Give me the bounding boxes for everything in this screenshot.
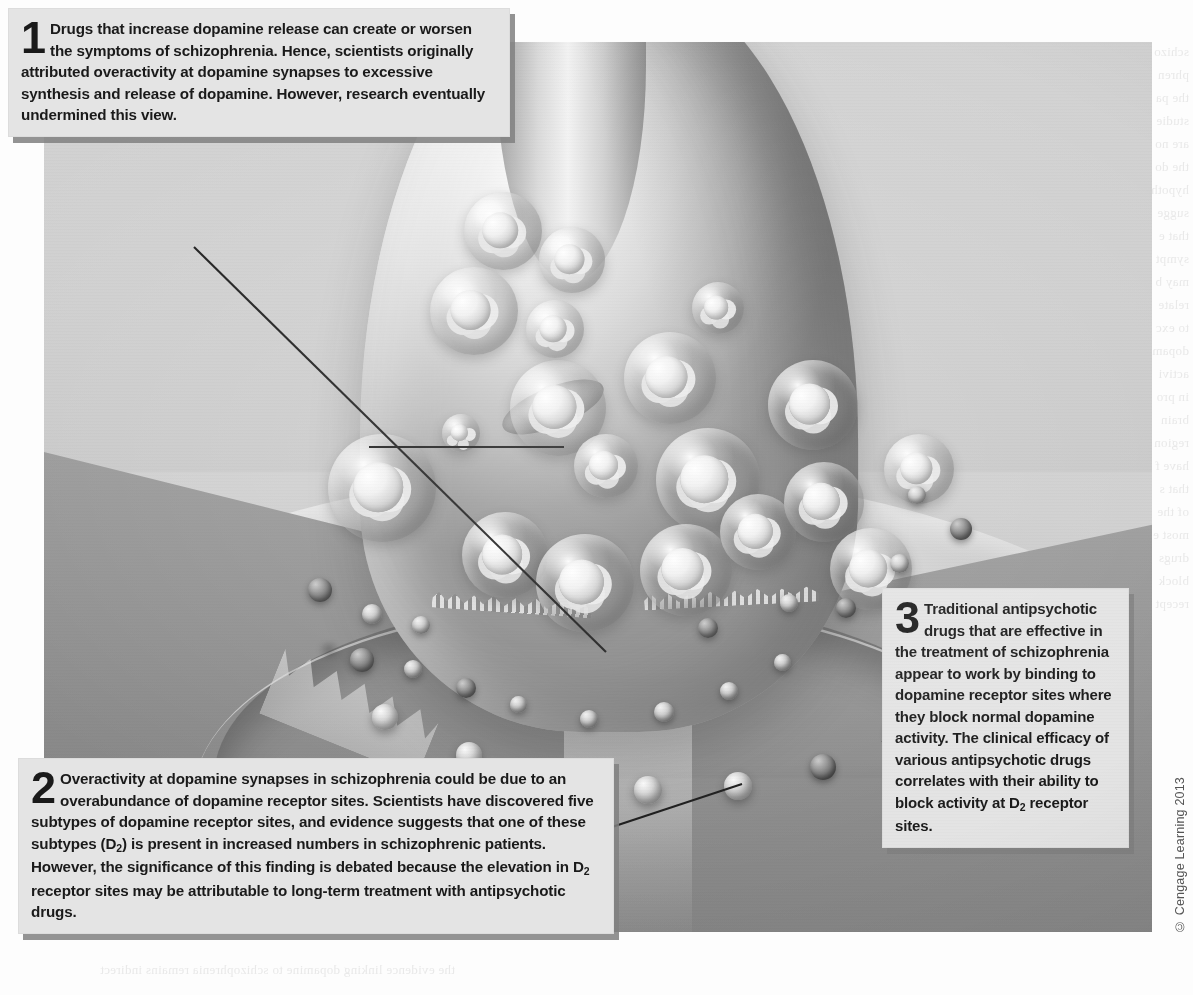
receptor-site xyxy=(372,704,398,730)
vesicle xyxy=(539,227,605,293)
dopamine-molecule xyxy=(580,710,598,728)
vesicle xyxy=(624,332,716,424)
subscript: 2 xyxy=(1020,801,1026,813)
dopamine-molecule xyxy=(890,554,909,573)
vesicle xyxy=(430,267,518,355)
callout-3[interactable]: 3 Traditional antipsychotic drugs that a… xyxy=(882,588,1129,848)
callout-1[interactable]: 1 Drugs that increase dopamine release c… xyxy=(8,8,510,137)
dopamine-molecule xyxy=(456,678,476,698)
dopamine-molecule xyxy=(350,648,374,672)
dopamine-molecule xyxy=(404,660,422,678)
callout-2-number: 2 xyxy=(31,769,55,807)
dopamine-molecule xyxy=(836,598,856,618)
callout-3-text: Traditional antipsychotic drugs that are… xyxy=(895,598,1116,837)
dopamine-molecule xyxy=(774,654,791,671)
show-through-text-right: schizo phren the pa studie are no the do… xyxy=(1151,40,1189,615)
vesicle xyxy=(720,494,796,570)
molecule-shadow xyxy=(316,642,342,658)
callout-1-number: 1 xyxy=(21,19,45,57)
callout-1-text: Drugs that increase dopamine release can… xyxy=(21,18,497,126)
vesicle xyxy=(526,300,584,358)
callout-3-number: 3 xyxy=(895,599,919,637)
dopamine-molecule xyxy=(510,696,527,713)
vesicle xyxy=(464,192,542,270)
callout-2[interactable]: 2 Overactivity at dopamine synapses in s… xyxy=(18,758,614,934)
dopamine-molecule xyxy=(780,594,798,612)
receptor-site xyxy=(724,772,752,800)
vesicle xyxy=(784,462,864,542)
dopamine-molecule xyxy=(412,616,430,634)
vesicle xyxy=(536,534,634,632)
callout-2-text: Overactivity at dopamine synapses in sch… xyxy=(31,768,601,923)
vesicle xyxy=(442,414,480,452)
scanned-page: schizo phren the pa studie are no the do… xyxy=(0,0,1193,995)
dopamine-molecule xyxy=(698,618,718,638)
dopamine-molecule xyxy=(362,604,382,624)
vesicle xyxy=(574,434,638,498)
dopamine-molecule xyxy=(950,518,972,540)
dopamine-molecule xyxy=(308,578,332,602)
vesicle xyxy=(640,524,732,616)
vesicle xyxy=(692,282,744,334)
subscript: 2 xyxy=(116,842,122,854)
dopamine-molecule xyxy=(654,702,674,722)
show-through-text-bottom: the evidence linking dopamine to schizop… xyxy=(100,958,455,981)
receptor-site xyxy=(810,754,836,780)
dopamine-molecule xyxy=(908,486,926,504)
receptor-site xyxy=(634,776,662,804)
vesicle xyxy=(328,434,436,542)
copyright-notice: © Cengage Learning 2013 xyxy=(1173,777,1187,933)
vesicle xyxy=(768,360,858,450)
subscript: 2 xyxy=(584,865,590,877)
dopamine-molecule xyxy=(720,682,738,700)
